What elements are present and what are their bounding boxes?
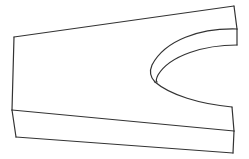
left-vertical-edge	[12, 37, 14, 110]
slot-outer-curve	[151, 29, 237, 82]
slot-bottom-curve	[155, 82, 232, 107]
right-top-vertical-edge	[234, 6, 237, 29]
front-top-edge	[12, 110, 234, 131]
slot-inner-curve	[156, 45, 237, 82]
part-drawing	[0, 0, 249, 159]
front-bottom-edge	[16, 137, 233, 153]
front-right-vertical-edge	[233, 131, 234, 153]
right-lower-vertical-edge	[232, 107, 234, 131]
front-left-vertical-edge	[12, 110, 16, 137]
drawing-canvas	[0, 0, 249, 159]
